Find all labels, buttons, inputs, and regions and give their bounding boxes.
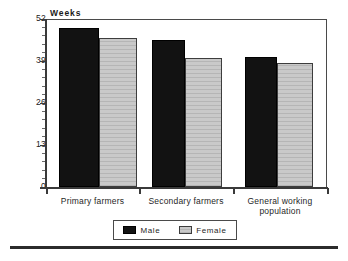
x-category-line1: Primary farmers bbox=[46, 196, 139, 206]
x-tick-1 bbox=[139, 188, 141, 194]
x-tick-3 bbox=[327, 188, 329, 194]
y-axis-title: Weeks bbox=[50, 8, 81, 18]
legend-label-female: Female bbox=[196, 226, 226, 235]
x-category-label-general-working-population: General working population bbox=[233, 196, 327, 216]
bar-secondary-farmers-female bbox=[185, 58, 222, 187]
x-tick-2 bbox=[233, 188, 235, 194]
x-category-line1: General working bbox=[233, 196, 327, 206]
x-tick-0 bbox=[46, 188, 48, 194]
bar-primary-farmers-male bbox=[59, 28, 99, 187]
bar-chart-figure: Weeks 52 39 26 13 0 bbox=[0, 0, 348, 261]
bottom-divider bbox=[10, 246, 338, 249]
bar-general-working-population-male bbox=[245, 57, 277, 187]
chart-legend: Male Female bbox=[113, 220, 237, 240]
legend-entry-male: Male bbox=[123, 226, 160, 235]
legend-entry-female: Female bbox=[179, 226, 226, 235]
x-category-line1: Secondary farmers bbox=[139, 196, 233, 206]
x-category-line2: population bbox=[233, 206, 327, 216]
bar-general-working-population-female bbox=[277, 63, 313, 187]
x-category-label-primary-farmers: Primary farmers bbox=[46, 196, 139, 206]
x-axis-line bbox=[40, 187, 328, 189]
legend-swatch-female-icon bbox=[179, 226, 192, 234]
x-category-label-secondary-farmers: Secondary farmers bbox=[139, 196, 233, 206]
legend-label-male: Male bbox=[140, 226, 160, 235]
legend-swatch-male-icon bbox=[123, 226, 136, 234]
plot-area bbox=[46, 19, 327, 187]
bar-primary-farmers-female bbox=[99, 38, 137, 187]
bar-secondary-farmers-male bbox=[152, 40, 185, 187]
